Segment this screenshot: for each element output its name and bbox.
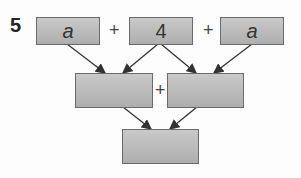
plus-operator-middle: + — [155, 80, 166, 101]
middle-box-1[interactable] — [75, 73, 153, 108]
bottom-box[interactable] — [122, 129, 199, 164]
plus-operator-top-1: + — [109, 20, 120, 41]
middle-box-2[interactable] — [167, 73, 244, 108]
diagram: 5 a + 4 + a + — [0, 0, 301, 178]
top-box-3: a — [220, 17, 284, 45]
plus-operator-top-2: + — [203, 20, 214, 41]
top-box-1: a — [36, 17, 100, 45]
top-box-2: 4 — [129, 17, 193, 45]
